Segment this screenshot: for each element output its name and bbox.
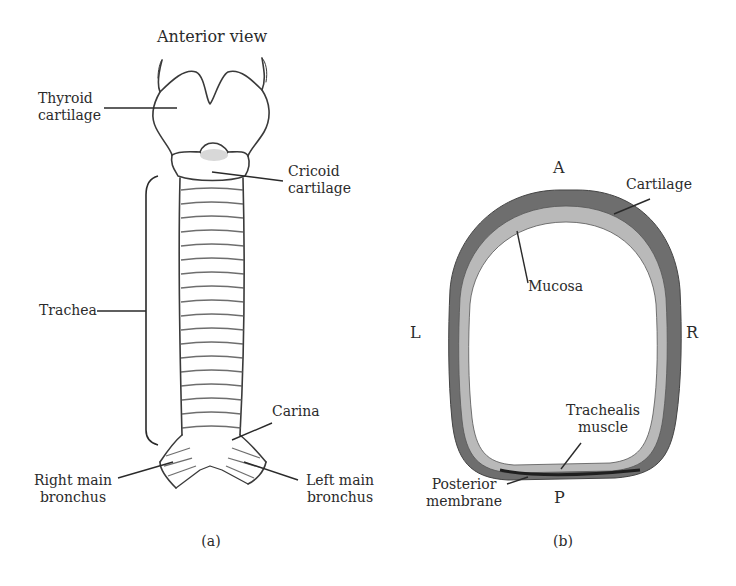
cricoid-cartilage-label: Cricoid cartilage bbox=[288, 163, 351, 197]
cricoid-label-line2: cartilage bbox=[288, 180, 351, 197]
trachealis-line2: muscle bbox=[563, 419, 643, 436]
right-bronchus-line2: bronchus bbox=[30, 489, 116, 506]
trachealis-line1: Trachealis bbox=[563, 402, 643, 419]
thyroid-label-line2: cartilage bbox=[38, 107, 101, 124]
carina-label: Carina bbox=[272, 403, 320, 420]
anterior-view-title: Anterior view bbox=[148, 28, 276, 45]
right-main-bronchus-label: Right main bronchus bbox=[30, 472, 116, 506]
trachea-label: Trachea bbox=[39, 302, 97, 319]
right-bronchus-line1: Right main bbox=[30, 472, 116, 489]
orientation-anterior: A bbox=[553, 159, 565, 176]
left-bronchus-line1: Left main bbox=[300, 472, 380, 489]
caption-a: (a) bbox=[196, 533, 226, 550]
posterior-line2: membrane bbox=[422, 493, 506, 510]
left-bronchus-line2: bronchus bbox=[300, 489, 380, 506]
posterior-membrane-label: Posterior membrane bbox=[422, 476, 506, 510]
left-main-bronchus-label: Left main bronchus bbox=[300, 472, 380, 506]
cricoid-label-line1: Cricoid bbox=[288, 163, 351, 180]
orientation-right: R bbox=[686, 324, 698, 341]
trachealis-muscle-label: Trachealis muscle bbox=[563, 402, 643, 436]
thyroid-label-line1: Thyroid bbox=[38, 90, 101, 107]
mucosa-label: Mucosa bbox=[528, 278, 583, 295]
orientation-left: L bbox=[410, 324, 421, 341]
posterior-line1: Posterior bbox=[422, 476, 506, 493]
thyroid-cartilage-label: Thyroid cartilage bbox=[38, 90, 101, 124]
cartilage-label: Cartilage bbox=[626, 176, 692, 193]
orientation-posterior: P bbox=[554, 489, 565, 506]
caption-b: (b) bbox=[548, 533, 578, 550]
